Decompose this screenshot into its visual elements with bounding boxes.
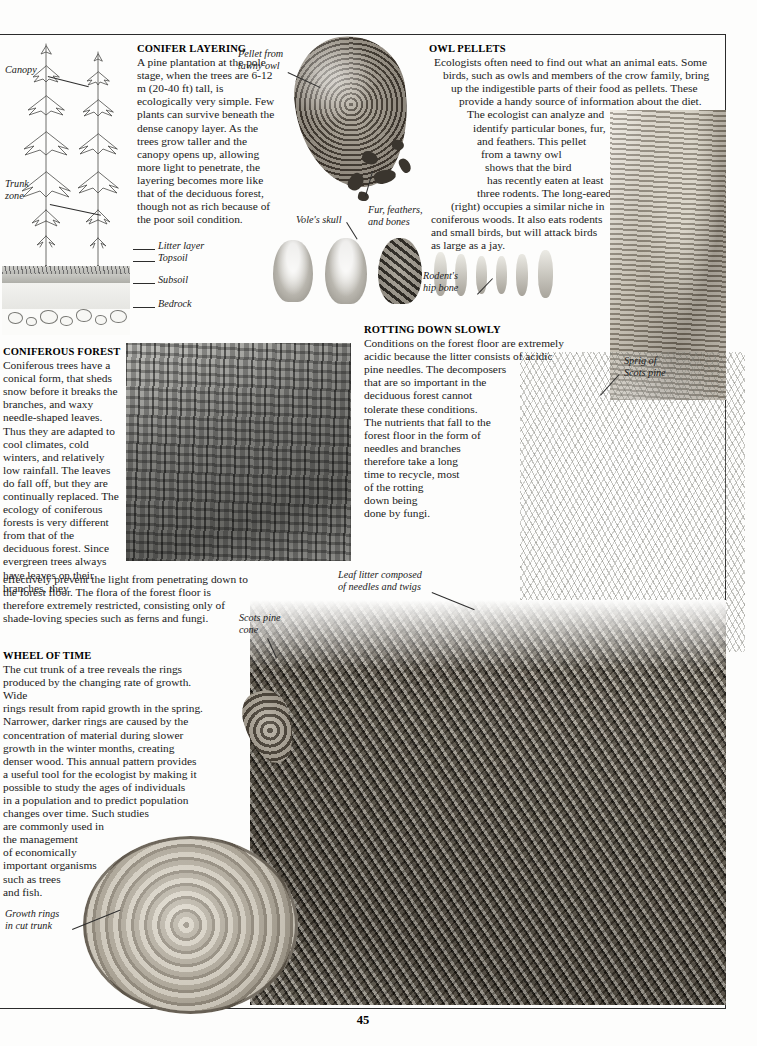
cut-trunk-photo bbox=[83, 836, 298, 1014]
section-coniferous-forest-continued: effectively prevent the light from penet… bbox=[3, 573, 251, 625]
caption-scots-pine-cone: Scots pine cone bbox=[239, 612, 281, 635]
rodent-hip-bone-photo bbox=[538, 250, 553, 298]
leader-line-voles-skull bbox=[346, 222, 357, 239]
caption-growth-rings: Growth rings in cut trunk bbox=[5, 908, 59, 931]
bedrock-pebble bbox=[76, 309, 92, 322]
vole-skull-photo-1 bbox=[273, 240, 313, 302]
heading-owl-pellets: OWL PELLETS bbox=[429, 43, 729, 55]
caption-bedrock: Bedrock bbox=[158, 298, 192, 310]
heading-coniferous-forest: CONIFEROUS FOREST bbox=[3, 346, 121, 358]
rodent-hip-bone-photo bbox=[496, 256, 507, 294]
caption-topsoil: Topsoil bbox=[158, 252, 188, 264]
bedrock-pebble bbox=[110, 310, 127, 323]
bedrock-pebble bbox=[60, 316, 73, 326]
bedrock-pebble bbox=[95, 315, 107, 325]
rodent-hip-bone-photo bbox=[516, 254, 528, 296]
caption-trunk-zone: Trunk zone bbox=[5, 178, 29, 201]
caption-canopy: Canopy bbox=[5, 64, 37, 76]
pellet-debris bbox=[357, 191, 370, 202]
caption-sprig-of-scots-pine: Sprig of Scots pine bbox=[624, 355, 666, 378]
leaf-litter-photo-fade bbox=[250, 600, 726, 670]
bedrock-pebble bbox=[26, 317, 37, 326]
bedrock-pebble bbox=[40, 310, 58, 324]
caption-leaf-litter: Leaf litter composed of needles and twig… bbox=[338, 569, 422, 592]
coniferous-forest-photo bbox=[126, 343, 351, 561]
book-page: Canopy Trunk zone Litter layer Topsoil S… bbox=[0, 0, 757, 1046]
soil-layer-subsoil bbox=[2, 283, 130, 309]
pellet-debris bbox=[397, 157, 413, 175]
fur-feathers-bones-photo bbox=[378, 238, 422, 304]
leader-line-subsoil bbox=[133, 283, 155, 284]
body-coniferous-forest-wide: effectively prevent the light from penet… bbox=[3, 573, 251, 625]
page-rule-top bbox=[0, 34, 726, 35]
body-conifer-layering: A pine plantation at the pole stage, whe… bbox=[137, 56, 275, 226]
heading-rotting-down-slowly: ROTTING DOWN SLOWLY bbox=[364, 324, 579, 336]
owl-pellet-photo bbox=[287, 30, 417, 195]
body-rotting-down-slowly: Conditions on the forest floor are extre… bbox=[364, 337, 579, 520]
caption-voles-skull: Vole's skull bbox=[296, 214, 341, 226]
page-number: 45 bbox=[0, 1013, 726, 1028]
soil-layer-litter bbox=[2, 266, 130, 274]
section-rotting-down-slowly: ROTTING DOWN SLOWLY Conditions on the fo… bbox=[364, 324, 579, 520]
caption-litter-layer: Litter layer bbox=[158, 240, 204, 252]
leader-line-topsoil bbox=[133, 261, 155, 262]
caption-rodents-hip-bone: Rodent's hip bone bbox=[423, 270, 458, 293]
leader-line-bedrock bbox=[133, 307, 155, 308]
caption-subsoil: Subsoil bbox=[158, 274, 188, 286]
vole-skull-photo-2 bbox=[325, 238, 367, 304]
page-rule-bottom bbox=[0, 1008, 726, 1009]
heading-wheel-of-time: WHEEL OF TIME bbox=[3, 650, 215, 662]
caption-pellet-from-tawny-owl: Pellet from tawny owl bbox=[238, 48, 283, 71]
leader-line-litter-layer bbox=[133, 249, 155, 250]
body-coniferous-forest-narrow: Coniferous trees have a conical form, th… bbox=[3, 359, 121, 595]
soil-layer-topsoil bbox=[2, 274, 130, 283]
bedrock-pebble bbox=[8, 312, 23, 324]
section-coniferous-forest: CONIFEROUS FOREST Coniferous trees have … bbox=[3, 346, 121, 595]
caption-fur-feathers-and-bones: Fur, feathers, and bones bbox=[368, 204, 423, 227]
